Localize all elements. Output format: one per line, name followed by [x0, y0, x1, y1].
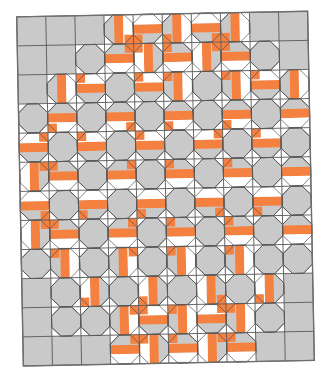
white-strip-h — [191, 14, 220, 24]
orange-strip-v — [202, 42, 212, 71]
white-strip-v — [21, 162, 31, 191]
orange-strip-h — [107, 170, 136, 180]
white-strip-h — [136, 190, 165, 200]
orange-strip-h — [137, 199, 166, 209]
white-strip-h — [253, 187, 282, 197]
white-strip-h — [283, 234, 312, 244]
orange-strip-h — [77, 142, 106, 152]
white-strip-h — [165, 178, 194, 188]
orange-strip-h — [165, 169, 194, 179]
orange-strip-v — [90, 277, 100, 306]
orange-strip-v — [178, 305, 188, 334]
orange-strip-v — [177, 246, 187, 275]
white-strip-v — [245, 303, 255, 332]
orange-strip-h — [78, 200, 107, 210]
orange-strip-v — [232, 71, 242, 100]
white-strip-h — [281, 118, 310, 128]
white-strip-v — [187, 304, 197, 333]
orange-strip-v — [265, 274, 275, 303]
orange-strip-h — [227, 342, 256, 352]
orange-strip-h — [49, 171, 78, 181]
orange-strip-h — [221, 51, 250, 61]
white-strip-v — [239, 12, 249, 41]
white-strip-h — [133, 15, 162, 25]
white-strip-v — [244, 245, 254, 274]
orange-strip-h — [195, 198, 224, 208]
orange-strip-h — [50, 229, 79, 239]
quilt-canvas — [0, 0, 332, 389]
orange-strip-h — [253, 196, 282, 206]
white-strip-h — [110, 354, 139, 364]
orange-strip-v — [230, 13, 240, 42]
orange-strip-v — [207, 333, 217, 362]
orange-strip-v — [30, 162, 40, 191]
orange-strip-h — [106, 112, 135, 122]
white-strip-h — [163, 62, 192, 72]
orange-strip-v — [60, 249, 70, 278]
orange-strip-h — [163, 53, 192, 63]
white-strip-h — [166, 236, 195, 246]
orange-strip-h — [224, 226, 253, 236]
white-strip-h — [105, 63, 134, 73]
orange-strip-h — [166, 227, 195, 237]
white-strip-v — [182, 72, 192, 101]
white-strip-v — [69, 248, 79, 277]
white-strip-v — [193, 42, 203, 71]
orange-strip-v — [149, 334, 159, 363]
white-strip-h — [20, 192, 49, 202]
orange-strip-v — [120, 306, 130, 335]
orange-strip-h — [135, 140, 164, 150]
white-strip-h — [195, 189, 224, 199]
orange-strip-h — [110, 345, 139, 355]
white-strip-v — [241, 71, 251, 100]
white-strip-h — [227, 351, 256, 361]
orange-strip-v — [172, 14, 182, 43]
orange-strip-h — [191, 23, 220, 33]
white-strip-v — [22, 220, 32, 249]
orange-strip-h — [20, 201, 49, 211]
white-strip-h — [107, 179, 136, 189]
orange-strip-h — [168, 344, 197, 354]
orange-strip-v — [57, 74, 67, 103]
orange-strip-h — [251, 80, 280, 90]
white-strip-h — [49, 180, 78, 190]
white-strip-h — [223, 177, 252, 187]
white-strip-h — [108, 237, 137, 247]
orange-strip-h — [48, 113, 77, 123]
white-strip-v — [66, 74, 76, 103]
orange-strip-h — [108, 228, 137, 238]
orange-strip-v — [206, 275, 216, 304]
white-strip-v — [299, 69, 309, 98]
orange-strip-h — [223, 168, 252, 178]
orange-strip-h — [222, 110, 251, 120]
orange-strip-h — [105, 54, 134, 64]
orange-strip-h — [164, 111, 193, 121]
orange-strip-h — [76, 83, 105, 93]
orange-strip-h — [252, 138, 281, 148]
orange-strip-v — [173, 72, 183, 101]
orange-strip-h — [197, 314, 226, 324]
white-strip-v — [186, 246, 196, 275]
orange-strip-v — [290, 70, 300, 99]
orange-strip-h — [280, 109, 309, 119]
orange-strip-v — [148, 276, 158, 305]
white-strip-h — [50, 238, 79, 248]
orange-strip-v — [118, 248, 128, 277]
orange-strip-h — [283, 225, 312, 235]
quilt-pattern-figure — [0, 0, 332, 389]
orange-strip-v — [114, 15, 124, 44]
white-strip-v — [181, 13, 191, 42]
white-strip-h — [225, 235, 254, 245]
orange-strip-v — [144, 43, 154, 72]
orange-strip-v — [235, 245, 245, 274]
orange-strip-h — [134, 82, 163, 92]
white-strip-h — [221, 60, 250, 70]
orange-strip-h — [133, 24, 162, 34]
orange-strip-h — [139, 315, 168, 325]
white-strip-v — [198, 333, 208, 362]
orange-strip-h — [194, 139, 223, 149]
white-strip-h — [169, 353, 198, 363]
orange-strip-h — [19, 143, 48, 153]
white-strip-h — [78, 191, 107, 201]
white-strip-h — [282, 176, 311, 186]
